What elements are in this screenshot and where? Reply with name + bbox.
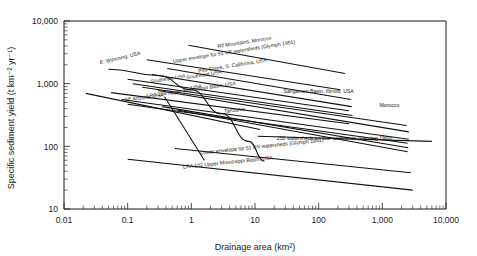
x-tick-label: 10 <box>250 215 260 225</box>
x-tick-label: 10,000 <box>433 215 459 225</box>
data-series-line <box>128 159 413 190</box>
series-label: E. Wyoming, USA <box>99 50 141 65</box>
y-axis-title: Specific sediment yield (t km⁻² yr⁻¹) <box>6 47 16 190</box>
series-label: Lower envelope for 51 US watersheds (Gly… <box>200 137 324 156</box>
x-tick-label: 0.1 <box>122 215 134 225</box>
series-label: Sangamon Basin, Illinois, USA <box>283 88 354 94</box>
x-tick-label: 1 <box>189 215 194 225</box>
x-tick-label: 1,000 <box>372 215 394 225</box>
data-series-line <box>165 97 205 161</box>
y-tick-label: 10 <box>49 204 59 214</box>
x-tick-label: 100 <box>312 215 326 225</box>
x-axis-title: Drainage area (km²) <box>215 242 296 252</box>
series-label: LRA 102 Upper Mississippi Basin, USA <box>183 154 274 169</box>
x-tick-label: 0.01 <box>56 215 73 225</box>
data-series-layer <box>86 45 432 190</box>
y-tick-label: 1,000 <box>37 79 59 89</box>
series-label: Tanzania <box>224 106 245 114</box>
series-label: Morocco <box>379 102 399 108</box>
y-tick-label: 10,000 <box>32 16 58 26</box>
sediment-yield-chart: 0.010.11101001,00010,00010,0001,00010010… <box>0 0 477 256</box>
series-label: Southeast USA <box>150 73 187 85</box>
chart-figure: 0.010.11101001,00010,00010,0001,00010010… <box>0 0 477 256</box>
y-tick-label: 100 <box>44 142 58 152</box>
